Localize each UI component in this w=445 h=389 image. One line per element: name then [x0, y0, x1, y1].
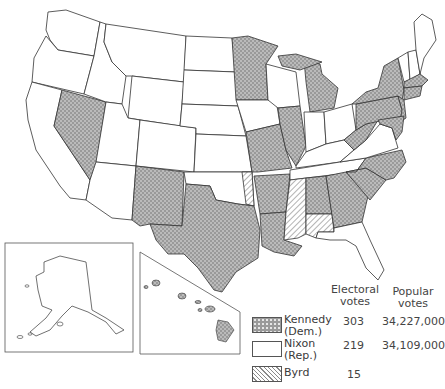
byrd-swatch [252, 366, 282, 382]
state-arkansas [254, 174, 290, 214]
kennedy-popular: 34,227,000 [382, 315, 445, 328]
byrd-electoral: 15 [347, 368, 361, 381]
state-michigan [304, 60, 338, 112]
nixon-popular: 34,109,000 [382, 339, 445, 352]
nixon-electoral: 219 [343, 339, 364, 352]
state-wyoming [128, 76, 184, 126]
electoral-votes-header: Electoral votes [330, 284, 380, 308]
state-new-mexico [132, 166, 184, 226]
state-kansas [194, 134, 252, 172]
state-arizona [86, 162, 136, 220]
nixon-label: Nixon (Rep.) [284, 338, 317, 362]
header-line: votes [330, 296, 380, 308]
state-south-dakota [182, 70, 238, 106]
kennedy-swatch [252, 317, 282, 333]
kennedy-electoral: 303 [343, 315, 364, 328]
state-wisconsin [266, 64, 300, 108]
party-label: (Rep.) [284, 350, 317, 362]
state-colorado [136, 120, 196, 172]
state-north-dakota [184, 36, 236, 72]
nixon-swatch [252, 341, 282, 357]
header-line: votes [385, 298, 441, 310]
state-connecticut-ri [404, 86, 422, 100]
byrd-label: Byrd [284, 367, 309, 379]
kennedy-label: Kennedy (Dem.) [284, 314, 332, 338]
popular-votes-header: Popular votes [385, 286, 441, 310]
candidate-name: Byrd [284, 367, 309, 379]
